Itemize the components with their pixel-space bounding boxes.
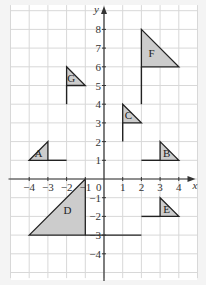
y-tick-label: 7 — [96, 42, 102, 54]
y-tick-label: 6 — [96, 61, 102, 73]
x-axis-label: x — [192, 179, 198, 191]
origin-label: 0 — [96, 181, 102, 193]
y-tick-label: 4 — [96, 98, 102, 110]
x-tick-label: 1 — [120, 181, 126, 193]
coordinate-grid-diagram: ABCDEFG xy −4−3−2−1123487654321−1−2−3−40 — [0, 0, 206, 285]
shape-label: A — [35, 147, 43, 159]
y-tick-label: −3 — [89, 229, 101, 241]
y-tick-label: 2 — [96, 136, 102, 148]
y-tick-label: 8 — [96, 23, 102, 35]
shape-label: D — [64, 204, 72, 216]
x-tick-label: 2 — [139, 181, 145, 193]
y-tick-label: −1 — [89, 192, 101, 204]
shape-label: C — [125, 109, 132, 121]
x-tick-label: 3 — [157, 181, 163, 193]
y-tick-label: 5 — [96, 80, 102, 92]
x-tick-label: −3 — [42, 181, 54, 193]
y-axis-label: y — [93, 3, 99, 15]
shape-label: B — [163, 147, 170, 159]
x-tick-label: −2 — [61, 181, 73, 193]
y-tick-label: 1 — [96, 154, 102, 166]
y-tick-label: −4 — [89, 248, 101, 260]
shape-label: G — [67, 72, 75, 84]
x-tick-label: 4 — [176, 181, 182, 193]
shape-label: F — [149, 47, 155, 59]
x-tick-label: −4 — [23, 181, 35, 193]
y-tick-label: 3 — [96, 117, 102, 129]
shape-label: E — [163, 203, 170, 215]
y-tick-label: −2 — [89, 210, 101, 222]
